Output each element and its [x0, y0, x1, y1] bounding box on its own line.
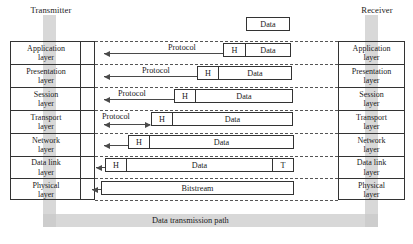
layer-row-datalink[interactable]: Data link layer	[339, 157, 404, 179]
pdu-box-presentation: H Data	[197, 66, 292, 80]
layer-row-network[interactable]: Network layer	[339, 134, 404, 157]
transmitter-layer-stack: Application layer Presentation layer Ses…	[10, 41, 95, 200]
data-transmission-path-label: Data transmission path	[152, 216, 229, 225]
layer-label: Presentation layer	[352, 67, 392, 85]
layer-label: Physical layer	[32, 181, 59, 199]
dashed-separator	[95, 110, 338, 111]
layer-label: Transport layer	[356, 113, 387, 131]
layer-label: Session layer	[359, 90, 383, 108]
layer-label: Session layer	[34, 90, 58, 108]
dashed-separator	[95, 133, 338, 134]
layer-label: Application layer	[27, 44, 65, 62]
pdu-cell-data: Data	[247, 18, 289, 30]
transmitter-title: Transmitter	[13, 5, 89, 15]
layer-label: Application layer	[353, 44, 391, 62]
pdu-cell-data: Data	[196, 90, 292, 102]
pdu-cell-header: H	[198, 67, 219, 79]
pdu-cell-data: Data	[219, 67, 291, 79]
protocol-label: Protocol	[141, 66, 171, 75]
layer-row-physical[interactable]: Physical layer	[11, 179, 94, 201]
pdu-cell-header: H	[152, 113, 173, 125]
pdu-box-application: H Data	[223, 43, 291, 57]
dashed-separator	[95, 156, 338, 157]
layer-row-application[interactable]: Application layer	[11, 42, 94, 65]
layer-label: Data link layer	[357, 158, 387, 176]
pdu-cell-bitstream: Bitstream	[102, 182, 293, 194]
layer-row-transport[interactable]: Transport layer	[11, 111, 94, 134]
layer-label: Presentation layer	[26, 67, 66, 85]
protocol-arrow-transport	[104, 124, 150, 125]
layer-label: Data link layer	[31, 158, 61, 176]
pdu-cell-data: Data	[246, 44, 290, 56]
pdu-box-transport: H Data	[151, 112, 293, 126]
layer-row-session[interactable]: Session layer	[339, 88, 404, 111]
protocol-label: Protocol	[117, 89, 147, 98]
pdu-cell-data: Data	[150, 136, 293, 148]
protocol-arrow-session	[104, 99, 184, 100]
dashed-separator	[95, 64, 338, 65]
pdu-box-datalink: H Data T	[105, 158, 294, 172]
pdu-cell-data: Data	[173, 113, 292, 125]
dashed-separator	[95, 41, 338, 42]
receiver-title: Receiver	[344, 5, 410, 15]
pdu-box-session: H Data	[174, 89, 293, 103]
layer-row-physical[interactable]: Physical layer	[339, 179, 404, 201]
pdu-box-application-data: Data	[246, 17, 290, 31]
pdu-cell-header: H	[224, 44, 246, 56]
pdu-box-network: H Data	[128, 135, 294, 149]
pdu-cell-data: Data	[127, 159, 272, 171]
protocol-label: Protocol	[101, 112, 131, 121]
layer-label: Transport layer	[31, 113, 62, 131]
receiver-layer-stack: Application layer Presentation layer Ses…	[338, 41, 405, 200]
layer-label: Network layer	[32, 136, 60, 154]
pdu-box-physical: Bitstream	[101, 181, 294, 195]
dashed-separator	[95, 87, 338, 88]
layer-row-presentation[interactable]: Presentation layer	[11, 65, 94, 88]
layer-label: Network layer	[358, 136, 386, 154]
pdu-cell-header: H	[106, 159, 127, 171]
pdu-cell-header: H	[129, 136, 150, 148]
dashed-separator	[95, 200, 338, 201]
dashed-separator	[95, 178, 338, 179]
layer-row-transport[interactable]: Transport layer	[339, 111, 404, 134]
layer-row-network[interactable]: Network layer	[11, 134, 94, 157]
layer-row-application[interactable]: Application layer	[339, 42, 404, 65]
layer-label: Physical layer	[358, 181, 385, 199]
protocol-label: Protocol	[167, 43, 197, 52]
layer-row-presentation[interactable]: Presentation layer	[339, 65, 404, 88]
layer-row-session[interactable]: Session layer	[11, 88, 94, 111]
pdu-cell-trailer: T	[272, 159, 293, 171]
diagram-canvas: Transmitter Receiver Application layer P…	[0, 0, 413, 244]
layer-row-datalink[interactable]: Data link layer	[11, 157, 94, 179]
pdu-cell-header: H	[175, 90, 196, 102]
